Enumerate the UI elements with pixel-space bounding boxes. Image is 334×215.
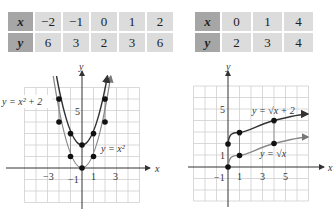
y-tick-label: 5: [220, 104, 225, 115]
x-tick-label: 3: [113, 171, 118, 182]
base-curve-label: y = x²: [100, 143, 126, 154]
x-axis-label: x: [154, 163, 160, 174]
shifted-sqrt-curve: [228, 114, 308, 144]
y-tick-label: 5: [75, 106, 80, 117]
shifted-curve-label: y = x² + 2: [1, 96, 42, 107]
x-tick-label: 5: [283, 171, 288, 182]
y-axis-label: y: [225, 61, 231, 72]
shifted-curve-label: y = √x + 2: [251, 105, 295, 116]
y-tick-label: −1: [68, 174, 79, 185]
y-tick-label: 1: [220, 150, 225, 161]
right-graph: x y 1 3 5 5 1 −1 y = √x + 2 y = √x: [188, 61, 333, 207]
x-tick-label: −3: [43, 171, 54, 182]
x-tick-label: 1: [91, 171, 96, 182]
x-axis-label: x: [327, 162, 333, 173]
right-grid: [194, 86, 309, 201]
graphs-canvas: x y −3 1 3 5 −1: [0, 0, 334, 215]
y-tick-label: −1: [214, 172, 225, 183]
x-tick-label: 1: [237, 171, 242, 182]
left-graph: x y −3 1 3 5 −1: [0, 61, 160, 209]
base-curve-label: y = √x: [259, 148, 287, 159]
y-axis-label: y: [78, 61, 84, 72]
x-tick-label: 3: [260, 171, 265, 182]
